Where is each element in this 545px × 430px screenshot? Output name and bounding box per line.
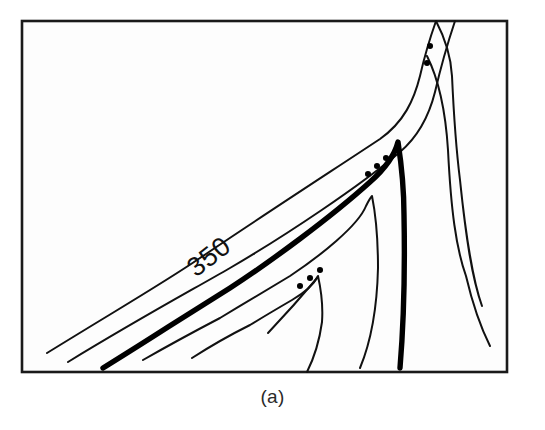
trough-middle-dot-1 <box>383 155 389 161</box>
panel-caption: (a) <box>0 386 545 408</box>
trough-lower-dot-3 <box>297 283 303 289</box>
trough-upper-dot-1 <box>427 43 433 49</box>
contour-chart-svg: 350 <box>0 0 545 430</box>
figure-panel-a: 350 (a) <box>0 0 545 430</box>
trough-middle-dot-3 <box>365 171 371 177</box>
trough-lower-dot-2 <box>307 275 313 281</box>
trough-upper-dot-2 <box>424 60 430 66</box>
trough-lower-dot-1 <box>317 267 323 273</box>
trough-middle-dot-2 <box>374 163 380 169</box>
